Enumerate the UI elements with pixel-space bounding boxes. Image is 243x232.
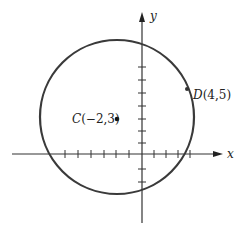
y-axis-label: y: [149, 9, 157, 23]
point-d-label: D(4,5): [192, 88, 231, 102]
point-d-dot: [185, 87, 189, 91]
circle-diagram: y x C(−2,3) D(4,5): [0, 0, 243, 232]
point-c-name: C: [72, 112, 81, 126]
point-c-label: C(−2,3): [72, 112, 120, 126]
x-axis-label: x: [227, 147, 234, 161]
y-axis-arrow-icon: [139, 12, 145, 22]
x-axis-arrow-icon: [213, 151, 223, 157]
coordinate-plane: y x C(−2,3) D(4,5): [0, 0, 243, 232]
point-c-coords: (−2,3): [81, 112, 120, 126]
point-d-name: D: [192, 88, 203, 102]
point-d-coords: (4,5): [203, 88, 231, 102]
